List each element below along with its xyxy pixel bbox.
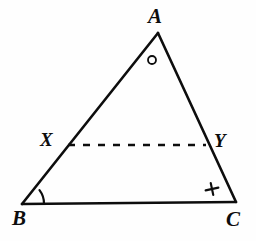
point-label-y: Y	[214, 131, 226, 150]
side-ac-line	[158, 33, 236, 202]
geometry-figure: A B C X Y	[0, 0, 256, 241]
vertex-label-b: B	[12, 208, 26, 229]
angle-arc-at-b	[40, 190, 45, 204]
point-label-x: X	[40, 130, 53, 149]
side-ab-line	[22, 33, 158, 204]
vertex-label-c: C	[226, 209, 240, 230]
side-bc-line	[22, 202, 236, 204]
geometry-canvas	[0, 0, 256, 241]
cross-angle-mark-icon	[204, 182, 219, 196]
circle-angle-mark-icon	[148, 56, 156, 64]
vertex-label-a: A	[148, 6, 162, 27]
